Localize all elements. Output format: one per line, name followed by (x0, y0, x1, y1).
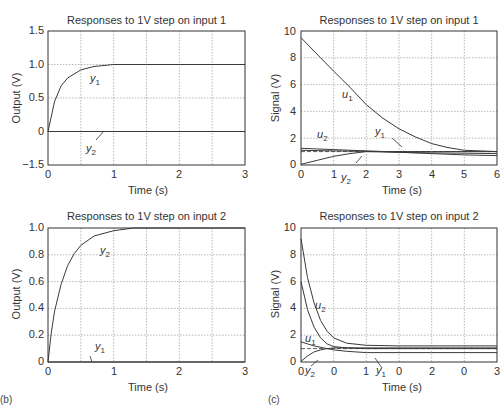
plot-canvas (0, 0, 502, 408)
caption-fragment (0, 402, 502, 408)
series-y1 (301, 342, 497, 353)
